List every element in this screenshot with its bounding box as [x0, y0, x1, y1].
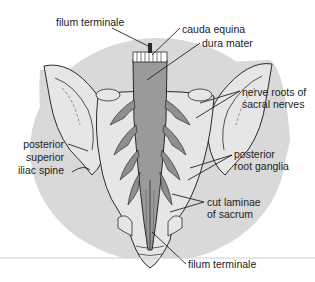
label-psis-line1: posterior — [18, 138, 64, 150]
label-nerve-roots-line1: nerve roots of — [242, 86, 306, 98]
label-ganglia-line2: root ganglia — [234, 160, 289, 172]
label-filum-terminale-top: filum terminale — [56, 16, 124, 28]
label-nerve-roots-line2: sacral nerves — [242, 98, 304, 110]
label-laminae-line2: of sacrum — [207, 208, 253, 220]
label-laminae-line1: cut laminae — [207, 196, 261, 208]
label-cauda-equina: cauda equina — [182, 23, 245, 35]
anatomy-figure: filum terminale cauda equina dura mater … — [0, 0, 315, 282]
label-psis-line3: iliac spine — [8, 164, 64, 176]
label-psis-line2: superior — [18, 151, 64, 163]
label-dura-mater: dura mater — [202, 37, 253, 49]
label-filum-terminale-bottom: filum terminale — [188, 258, 256, 270]
label-ganglia-line1: posterior — [234, 148, 275, 160]
